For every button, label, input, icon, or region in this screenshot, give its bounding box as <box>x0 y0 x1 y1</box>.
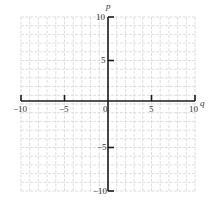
q-tick-label-neg10: −10 <box>13 105 27 114</box>
p-tick-label-10: 10 <box>96 13 105 22</box>
q-tick-label-neg5: −5 <box>59 105 69 114</box>
q-tick-label-0: 0 <box>103 105 108 114</box>
p-axis-label: p <box>106 2 111 11</box>
p-tick-label-5: 5 <box>101 56 106 65</box>
q-axis-label: q <box>200 99 205 108</box>
p-tick-label-neg5: −5 <box>97 143 107 152</box>
q-tick-label-10: 10 <box>189 105 198 114</box>
q-tick-label-5: 5 <box>149 105 154 114</box>
p-tick-label-neg10: −10 <box>93 187 107 196</box>
